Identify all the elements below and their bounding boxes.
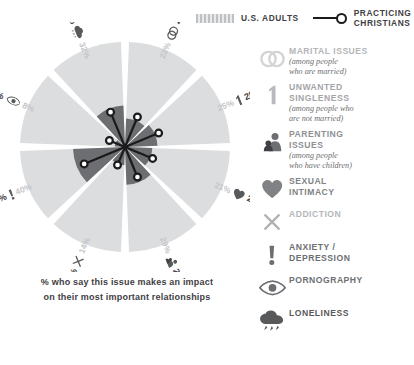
us-adults-value: 8%: [21, 100, 36, 114]
category-item-pornography[interactable]: PORNOGRAPHY: [255, 273, 414, 303]
single-person-icon: [234, 94, 244, 106]
x-cross-icon: [255, 207, 289, 237]
pie-chart-svg: 22%25%25%28%21%23%29%25%15%14%34%40%13%8…: [0, 22, 250, 272]
practicing-value: 28%: [243, 86, 250, 102]
caption-line-1: % who say this issue makes an impact: [18, 275, 236, 290]
legend-item-practicing-christians: PRACTICING CHRISTIANS: [313, 8, 412, 29]
category-subtitle: (among people who are not married): [289, 104, 354, 124]
category-text: PORNOGRAPHY: [289, 273, 363, 286]
wedding-rings-icon: [164, 24, 180, 42]
exclamation-icon: [255, 240, 289, 270]
category-text: LONELINESS: [289, 306, 349, 319]
heart-icon: [255, 174, 289, 204]
us-adults-value: 14%: [76, 236, 92, 255]
practicing-value: 34%: [0, 192, 8, 208]
caption-line-2: on their most important relationships: [18, 290, 236, 305]
us-adults-value: 40%: [14, 181, 33, 197]
practicing-christians-label: PRACTICING CHRISTIANS: [354, 8, 412, 29]
parent-child-icon: [255, 127, 289, 157]
category-item-addiction[interactable]: ADDICTION: [255, 207, 414, 237]
category-name: MARITAL ISSUES: [289, 46, 368, 57]
us-adults-value: 29%: [158, 235, 174, 254]
category-subtitle: (among people who are married): [289, 57, 368, 77]
spoke-dot-1[interactable]: [155, 130, 162, 137]
category-item-loneliness[interactable]: LONELINESS: [255, 306, 414, 336]
rain-cloud-icon: [255, 306, 289, 336]
category-text: PARENTING ISSUES(among people who have c…: [289, 127, 352, 171]
category-name: PARENTING ISSUES: [289, 129, 352, 151]
category-list: MARITAL ISSUES(among people who are marr…: [255, 44, 414, 339]
spoke-dot-0[interactable]: [134, 114, 141, 121]
category-item-anxiety[interactable]: ANXIETY / DEPRESSION: [255, 240, 414, 270]
chart-caption: % who say this issue makes an impact on …: [18, 275, 236, 305]
spoke-dot-6[interactable]: [106, 137, 113, 144]
category-name: PORNOGRAPHY: [289, 275, 363, 286]
practicing-value: 23%: [246, 193, 250, 209]
legend-dot-icon: [336, 13, 347, 24]
category-item-parenting[interactable]: PARENTING ISSUES(among people who have c…: [255, 127, 414, 171]
rain-cloud-icon: [69, 24, 86, 42]
us-adults-value: 25%: [216, 97, 235, 113]
practicing-value: 15%: [63, 267, 79, 272]
category-text: SEXUAL INTIMACY: [289, 174, 335, 198]
eye-icon: [255, 273, 289, 303]
single-person-icon: [255, 80, 289, 110]
spoke-dot-5[interactable]: [81, 161, 88, 168]
category-text: MARITAL ISSUES(among people who are marr…: [289, 44, 368, 77]
practicing-value: 25%: [171, 267, 187, 272]
us-adults-value: 32%: [77, 41, 93, 60]
category-text: ADDICTION: [289, 207, 341, 220]
x-cross-icon: [71, 254, 85, 268]
practicing-value: 25%: [172, 22, 188, 25]
practicing-value: 13%: [0, 85, 5, 101]
category-item-marital[interactable]: MARITAL ISSUES(among people who are marr…: [255, 44, 414, 77]
category-name: SEXUAL INTIMACY: [289, 176, 335, 198]
pie-chart: 22%25%25%28%21%23%29%25%15%14%34%40%13%8…: [0, 22, 250, 272]
us-adults-value: 21%: [213, 180, 232, 196]
spoke-dot-2[interactable]: [149, 155, 156, 162]
us-adults-value: 22%: [157, 41, 173, 60]
wedding-rings-icon: [255, 44, 289, 74]
spoke-dot-3[interactable]: [134, 174, 141, 181]
category-subtitle: (among people who have children): [289, 151, 352, 171]
category-name: ADDICTION: [289, 209, 341, 220]
eye-icon: [5, 94, 22, 108]
category-name: ANXIETY / DEPRESSION: [289, 242, 350, 264]
category-name: LONELINESS: [289, 308, 349, 319]
spoke-dot-4[interactable]: [114, 162, 121, 169]
category-item-sexual[interactable]: SEXUAL INTIMACY: [255, 174, 414, 204]
category-item-singleness[interactable]: UNWANTED SINGLENESS(among people who are…: [255, 80, 414, 124]
spoke-dot-7[interactable]: [107, 109, 114, 116]
legend-line: [313, 17, 337, 19]
heart-icon: [231, 187, 247, 202]
category-text: ANXIETY / DEPRESSION: [289, 240, 350, 264]
category-name: UNWANTED SINGLENESS: [289, 82, 354, 104]
practicing-christians-marker: [313, 13, 347, 24]
parent-child-icon: [165, 254, 180, 269]
category-text: UNWANTED SINGLENESS(among people who are…: [289, 80, 354, 124]
